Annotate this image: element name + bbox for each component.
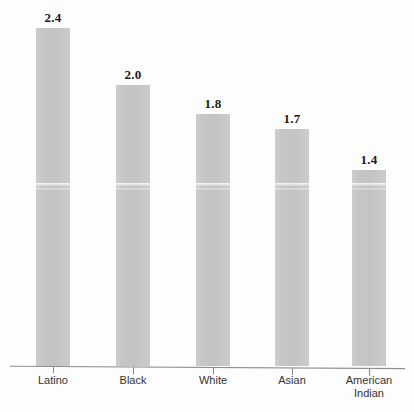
x-axis-tick	[133, 367, 134, 374]
x-axis-tick	[53, 366, 54, 373]
bar-value-label: 2.4	[20, 10, 86, 26]
x-axis-tick	[213, 367, 214, 374]
bar-white	[196, 114, 230, 366]
bar-american-indian	[352, 170, 386, 366]
bar-value-label: 1.8	[180, 96, 246, 112]
x-axis-line	[0, 358, 415, 378]
bar-value-label: 2.0	[100, 67, 166, 83]
bar-value-label: 1.4	[336, 152, 402, 168]
bar-value-label: 1.7	[259, 111, 325, 127]
plot-area: 2.4 Latino 2.0 Black 1.8 White 1.7 Asian…	[0, 0, 415, 412]
x-axis-tick	[292, 368, 293, 375]
bar-black	[116, 85, 150, 366]
bar-asian	[275, 129, 309, 366]
bar-latino	[36, 28, 70, 366]
x-axis-tick	[369, 369, 370, 376]
bar-chart: 2.4 Latino 2.0 Black 1.8 White 1.7 Asian…	[0, 0, 415, 412]
